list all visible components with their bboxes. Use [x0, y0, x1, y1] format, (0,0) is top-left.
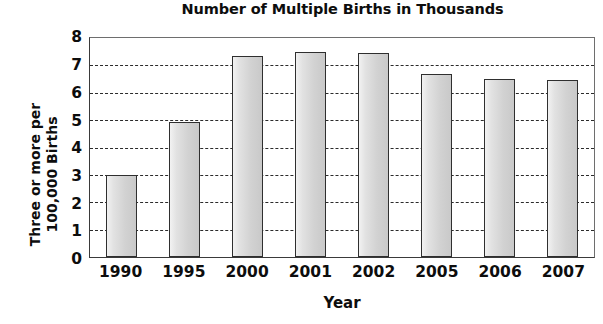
y-axis-title-line-1: Three or more per	[27, 67, 44, 282]
plot-area	[89, 37, 595, 258]
x-tick-2000: 2000	[216, 263, 279, 281]
y-tick-4: 4	[60, 141, 82, 157]
bar-slot-2000	[216, 38, 279, 257]
x-tick-1995: 1995	[152, 263, 215, 281]
bar-slot-2001	[279, 38, 342, 257]
bar-slot-2007	[531, 38, 594, 257]
y-tick-7: 7	[60, 58, 82, 74]
x-tick-2006: 2006	[469, 263, 532, 281]
bar-slot-2006	[468, 38, 531, 257]
bar-1990[interactable]	[106, 175, 137, 257]
y-tick-8: 8	[60, 30, 82, 46]
bar-2006[interactable]	[484, 79, 515, 257]
y-tick-0: 0	[60, 252, 82, 268]
x-tick-2002: 2002	[342, 263, 405, 281]
x-tick-1990: 1990	[89, 263, 152, 281]
bar-slot-1995	[153, 38, 216, 257]
y-tick-6: 6	[60, 86, 82, 102]
x-tick-2007: 2007	[532, 263, 595, 281]
bar-slot-1990	[90, 38, 153, 257]
bar-2000[interactable]	[232, 56, 263, 257]
y-tick-1: 1	[60, 224, 82, 240]
y-tick-5: 5	[60, 114, 82, 130]
bar-2005[interactable]	[421, 74, 452, 257]
y-axis-tick-labels: 8 7 6 5 4 3 2 1 0	[56, 0, 82, 324]
bar-2007[interactable]	[547, 80, 578, 257]
bar-slot-2002	[342, 38, 405, 257]
y-tick-3: 3	[60, 169, 82, 185]
chart-title: Number of Multiple Births in Thousands	[90, 1, 595, 17]
x-axis-tick-labels: 19901995200020012002200520062007	[89, 263, 595, 281]
bar-slot-2005	[405, 38, 468, 257]
bar-series	[90, 38, 594, 257]
bar-1995[interactable]	[169, 122, 200, 258]
bar-chart: Number of Multiple Births in Thousands T…	[0, 0, 603, 324]
y-tick-2: 2	[60, 197, 82, 213]
x-axis-title: Year	[89, 294, 595, 312]
bar-2001[interactable]	[295, 52, 326, 257]
x-tick-2001: 2001	[279, 263, 342, 281]
bar-2002[interactable]	[358, 53, 389, 257]
x-tick-2005: 2005	[405, 263, 468, 281]
